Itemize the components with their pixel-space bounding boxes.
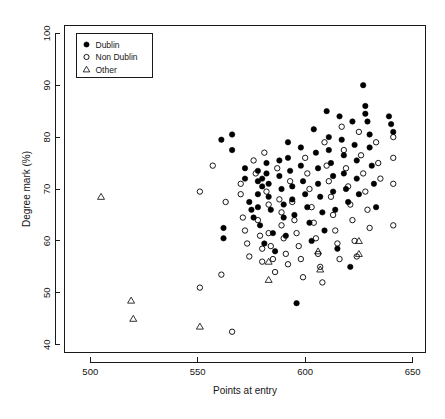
data-point-dublin [279, 186, 284, 191]
y-tick-label: 90 [41, 80, 52, 91]
data-point-dublin [247, 199, 252, 204]
data-point-non-dublin [313, 236, 318, 241]
data-point-non-dublin [262, 150, 267, 155]
data-point-dublin [285, 140, 290, 145]
data-point-other [98, 193, 105, 199]
data-point-non-dublin [272, 269, 277, 274]
data-point-non-dublin [300, 275, 305, 280]
data-point-non-dublin [285, 262, 290, 267]
data-point-non-dublin [259, 259, 264, 264]
data-point-dublin [363, 111, 368, 116]
data-point-dublin [371, 181, 376, 186]
data-point-non-dublin [275, 166, 280, 171]
data-point-non-dublin [326, 179, 331, 184]
data-point-dublin [313, 150, 318, 155]
data-point-non-dublin [341, 147, 346, 152]
y-tick-label: 70 [41, 184, 52, 195]
data-point-non-dublin [320, 280, 325, 285]
data-point-dublin [367, 132, 372, 137]
data-point-non-dublin [324, 163, 329, 168]
data-point-other [265, 276, 272, 282]
y-tick-label: 60 [41, 236, 52, 247]
data-point-dublin [363, 103, 368, 108]
data-point-non-dublin [210, 163, 215, 168]
data-point-non-dublin [270, 256, 275, 261]
data-point-non-dublin [322, 140, 327, 145]
data-point-dublin [290, 184, 295, 189]
data-point-dublin [354, 176, 359, 181]
data-point-dublin [311, 127, 316, 132]
data-point-dublin [298, 145, 303, 150]
data-point-dublin [369, 163, 374, 168]
data-point-dublin [298, 163, 303, 168]
legend-marker-dublin-icon [84, 42, 89, 47]
data-point-dublin [229, 147, 234, 152]
legend-label: Dublin [96, 40, 120, 50]
data-point-non-dublin [257, 233, 262, 238]
data-point-non-dublin [378, 176, 383, 181]
data-point-dublin [277, 173, 282, 178]
data-point-dublin [259, 184, 264, 189]
data-point-non-dublin [259, 246, 264, 251]
y-tick-label: 40 [41, 339, 52, 350]
x-tick-label: 550 [190, 366, 206, 377]
data-point-dublin [350, 119, 355, 124]
data-point-non-dublin [365, 207, 370, 212]
data-point-non-dublin [376, 160, 381, 165]
y-tick-label: 80 [41, 132, 52, 143]
data-point-non-dublin [242, 228, 247, 233]
data-point-non-dublin [255, 217, 260, 222]
data-point-non-dublin [350, 217, 355, 222]
x-tick-label: 600 [297, 366, 313, 377]
data-point-dublin [341, 171, 346, 176]
data-point-dublin [262, 241, 267, 246]
data-point-dublin [367, 145, 372, 150]
data-point-non-dublin [391, 134, 396, 139]
data-point-dublin [341, 153, 346, 158]
data-point-dublin [292, 212, 297, 217]
scatter-plot-figure: 500550600650Points at entry4050607080901… [0, 0, 445, 419]
data-point-dublin [268, 207, 273, 212]
plot-canvas: 500550600650Points at entry4050607080901… [0, 0, 445, 419]
data-point-non-dublin [240, 215, 245, 220]
data-point-non-dublin [358, 153, 363, 158]
data-point-non-dublin [279, 223, 284, 228]
data-point-dublin [229, 132, 234, 137]
data-point-dublin [326, 147, 331, 152]
data-point-non-dublin [373, 140, 378, 145]
data-point-dublin [315, 181, 320, 186]
data-point-non-dublin [335, 241, 340, 246]
data-points-group [98, 82, 396, 334]
data-point-non-dublin [238, 181, 243, 186]
data-point-non-dublin [302, 155, 307, 160]
data-point-dublin [352, 142, 357, 147]
data-point-non-dublin [294, 230, 299, 235]
data-point-non-dublin [296, 243, 301, 248]
data-point-dublin [388, 121, 393, 126]
data-point-other [130, 315, 137, 321]
data-point-dublin [322, 228, 327, 233]
data-point-dublin [255, 204, 260, 209]
data-point-non-dublin [330, 212, 335, 217]
y-tick-label: 100 [41, 25, 52, 41]
data-point-dublin [277, 158, 282, 163]
data-point-non-dublin [339, 124, 344, 129]
data-point-non-dublin [238, 191, 243, 196]
data-point-non-dublin [391, 181, 396, 186]
data-point-dublin [264, 160, 269, 165]
data-point-other [196, 323, 203, 329]
data-point-non-dublin [305, 171, 310, 176]
data-point-non-dublin [363, 189, 368, 194]
data-point-dublin [337, 114, 342, 119]
data-point-non-dublin [283, 251, 288, 256]
y-tick-label: 50 [41, 288, 52, 299]
data-point-non-dublin [367, 225, 372, 230]
data-point-dublin [356, 191, 361, 196]
data-point-dublin [300, 179, 305, 184]
data-point-dublin [257, 223, 262, 228]
data-point-non-dublin [268, 243, 273, 248]
data-point-dublin [354, 158, 359, 163]
x-axis-title: Points at entry [213, 385, 277, 396]
data-point-dublin [333, 207, 338, 212]
data-point-dublin [285, 155, 290, 160]
